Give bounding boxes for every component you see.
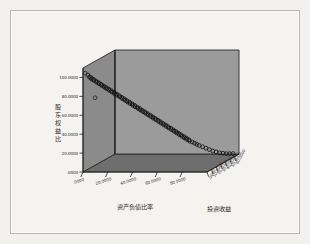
- y-axis-title-char-1: 东: [55, 111, 61, 118]
- y-tick-label: 40.0000: [62, 132, 79, 137]
- x-tick-label: 20.0000: [95, 176, 112, 186]
- y-axis-tick-labels: .000020.000040.000060.000080.0000100.000…: [59, 75, 78, 175]
- y-tick-label: 100.0000: [59, 75, 78, 80]
- x-tick-label: 80.0000: [169, 176, 186, 186]
- z-axis-title: 投资收益: [207, 205, 231, 213]
- y-axis-title-char-4: 比: [55, 135, 61, 143]
- x-axis-title: 资产负债比率: [117, 203, 153, 211]
- y-axis-ticks: [80, 77, 84, 172]
- screenshot-root: .000020.000040.000060.000080.0000100.000…: [0, 0, 310, 244]
- x-axis-ticks: [81, 172, 182, 177]
- x-tick-label: .0000: [72, 177, 85, 185]
- x-tick-label: 60.0000: [144, 176, 161, 186]
- y-tick-label: 20.0000: [62, 151, 79, 156]
- x-tick-label: 40.0000: [120, 176, 137, 186]
- y-axis-title: 股 东 权 益 比: [55, 103, 61, 143]
- scatter-3d-chart[interactable]: .000020.000040.000060.000080.0000100.000…: [11, 11, 299, 233]
- chart-frame: .000020.000040.000060.000080.0000100.000…: [10, 10, 300, 234]
- y-tick-label: 60.0000: [62, 113, 79, 118]
- y-axis-title-char-2: 权: [55, 119, 61, 127]
- y-axis-title-char-3: 益: [55, 127, 61, 134]
- cube-left-wall: [83, 50, 115, 172]
- y-tick-label: .0000: [67, 170, 79, 175]
- y-axis-title-char-0: 股: [55, 103, 61, 111]
- chart-plot-area[interactable]: .000020.000040.000060.000080.0000100.000…: [11, 11, 299, 233]
- y-tick-label: 80.0000: [62, 94, 79, 99]
- cube-back-wall: [115, 50, 239, 154]
- x-axis-tick-labels: .000020.000040.000060.000080.0000: [72, 176, 186, 186]
